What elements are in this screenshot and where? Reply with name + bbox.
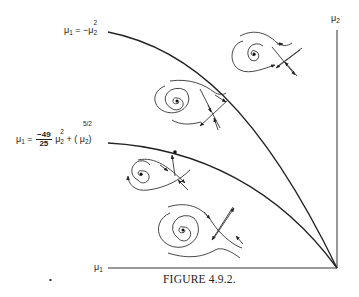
phase-portrait-homoclinic [128, 155, 190, 190]
homoclinic-curve-label: μ1 = −4925 μ22 + ( μ25/2) [16, 131, 92, 148]
diagram-canvas [0, 0, 359, 297]
outer-curve-label: μ1 = −μ22 [64, 26, 97, 35]
mu1-axis-label: μ1 [94, 263, 103, 272]
figure-caption: FIGURE 4.9.2. [163, 273, 236, 285]
bifurcation-diagram: μ2 μ1 μ1 = −μ22 μ1 = −4925 μ22 + ( μ25/2… [0, 0, 359, 297]
phase-portrait-top-right [232, 32, 302, 76]
coefficient-fraction: −4925 [36, 131, 52, 148]
outer-bifurcation-curve [108, 32, 337, 268]
phase-portrait-middle [155, 80, 228, 130]
mu2-axis-label: μ2 [331, 14, 340, 23]
bifurcation-point [173, 150, 177, 154]
stray-mark: • [49, 276, 52, 284]
phase-portrait-bottom [158, 205, 243, 258]
